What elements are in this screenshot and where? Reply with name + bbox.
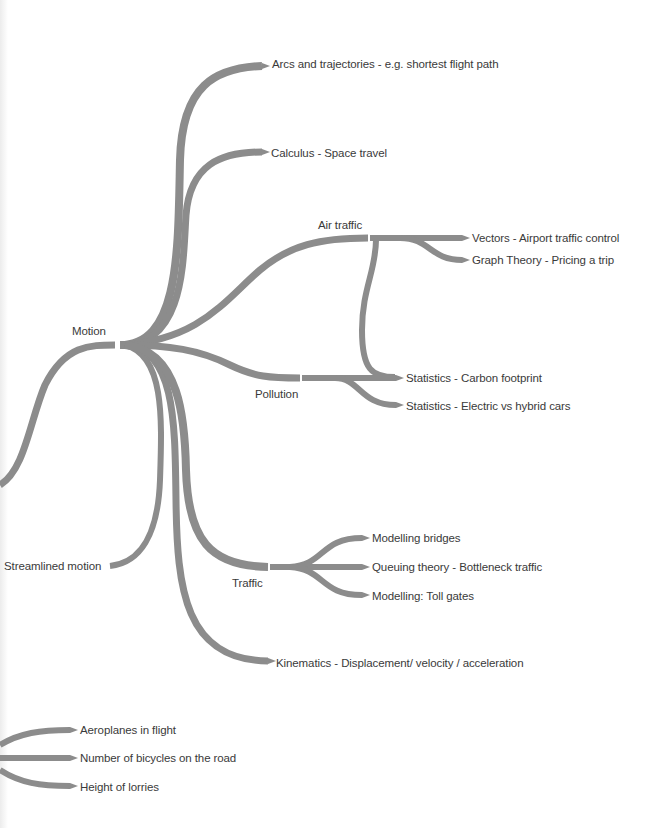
arrow-tips xyxy=(70,63,470,789)
branch-traffic xyxy=(125,345,268,567)
node-lorries: Height of lorries xyxy=(80,780,159,794)
node-aeroplanes: Aeroplanes in flight xyxy=(80,723,176,737)
node-toll: Modelling: Toll gates xyxy=(372,589,474,603)
branch-into-motion xyxy=(0,345,115,485)
node-pollution: Pollution xyxy=(255,387,298,401)
node-bicycles: Number of bicycles on the road xyxy=(80,751,236,765)
node-arcs: Arcs and trajectories - e.g. shortest fl… xyxy=(272,57,499,71)
node-kinematics: Kinematics - Displacement/ velocity / ac… xyxy=(276,656,523,670)
mind-map-branches xyxy=(0,0,662,828)
branch-aeroplanes xyxy=(0,730,70,745)
branch-arcs xyxy=(120,66,262,345)
node-air-traffic: Air traffic xyxy=(318,218,362,232)
branch-toll xyxy=(290,567,362,595)
branch-lorries xyxy=(0,770,70,786)
node-bridges: Modelling bridges xyxy=(372,531,460,545)
branch-kinematics xyxy=(125,345,268,661)
node-graph-theory: Graph Theory - Pricing a trip xyxy=(472,253,614,267)
node-calculus: Calculus - Space travel xyxy=(271,146,387,160)
node-carbon: Statistics - Carbon footprint xyxy=(406,371,542,385)
node-vectors: Vectors - Airport traffic control xyxy=(472,231,619,245)
node-electric: Statistics - Electric vs hybrid cars xyxy=(406,399,570,413)
branch-air-to-carbon xyxy=(362,240,395,377)
node-streamlined: Streamlined motion xyxy=(4,559,101,573)
node-queuing: Queuing theory - Bottleneck traffic xyxy=(372,560,542,574)
branch-electric xyxy=(335,378,396,405)
branch-bridges xyxy=(290,538,362,567)
branch-streamlined xyxy=(110,345,161,566)
node-traffic: Traffic xyxy=(232,576,263,590)
branch-calculus xyxy=(122,152,262,345)
node-motion: Motion xyxy=(72,324,106,338)
branch-graph-theory xyxy=(400,238,462,260)
